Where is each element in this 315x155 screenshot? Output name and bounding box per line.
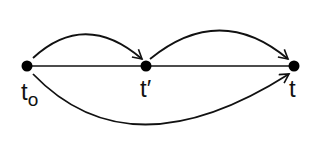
label-t: t xyxy=(289,75,296,102)
node-t0 xyxy=(22,61,33,72)
label-t0: to xyxy=(21,78,38,110)
arc-t0-to-t xyxy=(33,74,289,125)
node-tprime xyxy=(141,61,152,72)
arc-t0-to-tprime xyxy=(33,34,142,59)
node-t xyxy=(289,61,300,72)
arc-tprime-to-t xyxy=(150,31,288,60)
transition-diagram: to t′ t xyxy=(0,0,315,155)
label-tprime: t′ xyxy=(140,75,152,102)
